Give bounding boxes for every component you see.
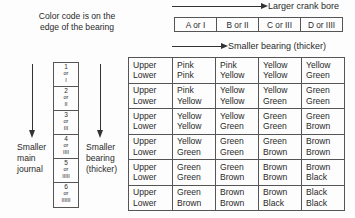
upper-lower-label: UpperLower — [129, 58, 173, 84]
bearing-label: Smaller bearing (thicker) — [86, 142, 117, 175]
lower-color: Pink — [177, 70, 215, 81]
color-code-note: Color code is on the edge of the bearing — [27, 11, 127, 32]
color-cell: BrownBrown — [302, 134, 345, 160]
lower-color: Green — [306, 96, 344, 107]
color-cell: YellowYellow — [259, 58, 302, 84]
upper-color: Green — [306, 85, 344, 96]
arrow-right-icon — [221, 43, 228, 49]
upper-color: Brown — [263, 162, 301, 173]
color-cell: BlackBlack — [302, 185, 345, 211]
upper-color: Green — [177, 162, 215, 173]
row-code-4: 4orIIII — [54, 135, 78, 159]
lower-color: Brown — [263, 172, 301, 183]
lower-color: Green — [220, 121, 258, 132]
upper-color: Brown — [263, 187, 301, 198]
upper-color: Yellow — [177, 136, 215, 147]
lower-color: Yellow — [177, 96, 215, 107]
lower-color: Brown — [220, 198, 258, 209]
color-cell: PinkYellow — [216, 58, 259, 84]
color-cell: YellowYellow — [216, 83, 259, 109]
lower-color: Green — [177, 172, 215, 183]
table-row: UpperLowerPinkPinkPinkYellowYellowYellow… — [129, 58, 345, 84]
color-cell: BrownBrown — [259, 160, 302, 186]
color-cell: BrownBrown — [216, 185, 259, 211]
upper-color: Brown — [306, 136, 344, 147]
color-cell: BrownBlack — [302, 160, 345, 186]
lower-color: Green — [263, 121, 301, 132]
row-code-2: 2orII — [54, 87, 78, 111]
upper-lower-label: UpperLower — [129, 185, 173, 211]
note-line-1: Color code is on the — [27, 11, 127, 22]
color-cell: PinkPink — [173, 58, 216, 84]
color-cell: BrownBlack — [259, 185, 302, 211]
upper-color: Green — [306, 111, 344, 122]
color-cell: GreenGreen — [216, 134, 259, 160]
upper-color: Black — [306, 187, 344, 198]
table-row: UpperLowerGreenBrownBrownBrownBrownBlack… — [129, 185, 345, 211]
lower-color: Brown — [177, 198, 215, 209]
table-row: UpperLowerPinkYellowYellowYellowYellowGr… — [129, 83, 345, 109]
upper-color: Yellow — [220, 85, 258, 96]
arrow-line — [172, 6, 262, 7]
upper-color: Green — [220, 136, 258, 147]
column-header-b: B or II — [217, 18, 259, 32]
lower-color: Green — [177, 147, 215, 158]
color-cell: YellowGreen — [302, 58, 345, 84]
lower-color: Green — [220, 147, 258, 158]
lower-color: Black — [306, 172, 344, 183]
upper-color: Pink — [220, 60, 258, 71]
table-row: UpperLowerYellowYellowYellowGreenGreenGr… — [129, 109, 345, 135]
color-cell: PinkYellow — [173, 83, 216, 109]
upper-lower-label: UpperLower — [129, 134, 173, 160]
color-cell: GreenBrown — [302, 109, 345, 135]
color-cell: GreenGreen — [302, 83, 345, 109]
upper-color: Yellow — [306, 60, 344, 71]
table-row: UpperLowerGreenGreenGreenBrownBrownBrown… — [129, 160, 345, 186]
lower-color: Green — [306, 70, 344, 81]
arrow-down-icon — [29, 130, 35, 138]
upper-color: Yellow — [220, 111, 258, 122]
color-cell: GreenBrown — [216, 160, 259, 186]
upper-color: Green — [177, 187, 215, 198]
upper-lower-label: UpperLower — [129, 160, 173, 186]
note-line-2: edge of the bearing — [27, 22, 127, 33]
color-cell: GreenGreen — [259, 109, 302, 135]
arrow-line — [172, 46, 222, 47]
lower-color: Green — [263, 96, 301, 107]
lower-color: Brown — [306, 147, 344, 158]
row-code-3: 3orIII — [54, 111, 78, 135]
upper-color: Brown — [220, 187, 258, 198]
upper-color: Pink — [177, 60, 215, 71]
upper-lower-label: UpperLower — [129, 109, 173, 135]
column-header-box: A or I B or II C or III D or IIII — [174, 17, 343, 32]
color-cell: YellowYellow — [173, 109, 216, 135]
bearing-color-table: UpperLowerPinkPinkPinkYellowYellowYellow… — [128, 57, 345, 211]
bearing-size-label: Smaller bearing (thicker) — [228, 41, 326, 51]
lower-color: Black — [306, 198, 344, 209]
row-code-5: 5orIIIII — [54, 159, 78, 183]
color-cell: YellowGreen — [216, 109, 259, 135]
column-header-d: D or IIII — [301, 18, 343, 32]
color-cell: YellowGreen — [259, 83, 302, 109]
arrow-right-icon — [261, 3, 268, 9]
arrow-line — [32, 64, 33, 132]
upper-color: Yellow — [263, 85, 301, 96]
upper-color: Green — [263, 136, 301, 147]
lower-color: Yellow — [263, 70, 301, 81]
color-cell: GreenBrown — [173, 185, 216, 211]
column-header-c: C or III — [259, 18, 301, 32]
lower-color: Yellow — [220, 96, 258, 107]
color-cell: GreenGreen — [173, 160, 216, 186]
upper-color: Brown — [306, 162, 344, 173]
table-row: UpperLowerYellowGreenGreenGreenGreenBrow… — [129, 134, 345, 160]
arrow-down-icon — [97, 130, 103, 138]
upper-lower-label: UpperLower — [129, 83, 173, 109]
lower-color: Brown — [263, 147, 301, 158]
color-cell: GreenBrown — [259, 134, 302, 160]
upper-color: Green — [220, 162, 258, 173]
lower-color: Yellow — [177, 121, 215, 132]
arrow-line — [100, 64, 101, 132]
upper-color: Yellow — [263, 60, 301, 71]
upper-color: Pink — [177, 85, 215, 96]
row-code-1: 1orI — [54, 63, 78, 87]
